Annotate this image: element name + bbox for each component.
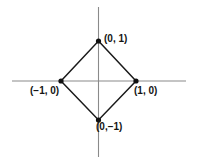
coordinate-plot-figure: (0, 1) (−1, 0) (1, 0) (0,−1) [0, 0, 197, 164]
point-label-bottom: (0,−1) [96, 121, 122, 132]
vertex-dot-right [133, 78, 138, 83]
point-label-top: (0, 1) [104, 33, 127, 44]
plot-canvas [0, 0, 197, 164]
vertex-dot-left [58, 78, 63, 83]
point-label-left: (−1, 0) [30, 85, 59, 96]
vertex-dot-top [96, 38, 101, 43]
point-label-right: (1, 0) [134, 85, 157, 96]
